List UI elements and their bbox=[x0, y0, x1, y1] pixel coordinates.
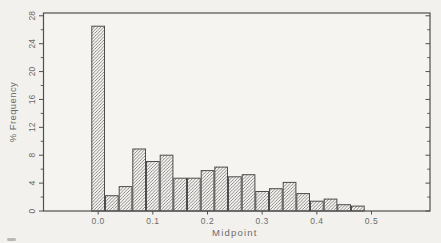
y-tick-label: 12 bbox=[27, 122, 37, 132]
histogram-bar bbox=[352, 206, 365, 211]
histogram-figure: 04812162024280.00.10.20.30.40.5% Frequen… bbox=[0, 0, 441, 243]
histogram-bar bbox=[229, 177, 242, 211]
scan-artifact bbox=[7, 238, 16, 241]
x-tick-label: 0.4 bbox=[310, 216, 323, 226]
histogram-bar bbox=[119, 187, 132, 211]
histogram-chart: 04812162024280.00.10.20.30.40.5% Frequen… bbox=[0, 0, 441, 243]
histogram-bar bbox=[283, 182, 296, 211]
histogram-bar bbox=[106, 196, 119, 211]
histogram-bar bbox=[311, 201, 324, 211]
histogram-bar bbox=[160, 155, 173, 211]
histogram-bar bbox=[256, 192, 269, 212]
y-tick-label: 8 bbox=[27, 153, 37, 158]
histogram-bar bbox=[188, 178, 201, 211]
y-tick-label: 16 bbox=[27, 94, 37, 104]
histogram-bar bbox=[338, 205, 351, 211]
histogram-bar bbox=[133, 149, 146, 211]
x-tick-label: 0.2 bbox=[201, 216, 214, 226]
histogram-bar bbox=[92, 26, 105, 211]
y-tick-label: 20 bbox=[27, 67, 37, 77]
histogram-bar bbox=[201, 171, 214, 211]
histogram-bar bbox=[174, 178, 187, 211]
histogram-bar bbox=[297, 194, 310, 211]
x-tick-label: 0.5 bbox=[365, 216, 378, 226]
y-tick-label: 0 bbox=[27, 208, 37, 213]
x-tick-label: 0.1 bbox=[146, 216, 159, 226]
histogram-bar bbox=[215, 167, 228, 211]
y-tick-label: 28 bbox=[27, 11, 37, 21]
y-axis-title: % Frequency bbox=[7, 82, 18, 142]
x-tick-label: 0.0 bbox=[92, 216, 105, 226]
x-axis-title: Midpoint bbox=[212, 227, 258, 238]
histogram-bar bbox=[324, 199, 337, 211]
y-tick-label: 4 bbox=[27, 180, 37, 185]
histogram-bar bbox=[270, 189, 283, 211]
x-tick-label: 0.3 bbox=[256, 216, 269, 226]
histogram-bar bbox=[147, 162, 160, 212]
y-tick-label: 24 bbox=[27, 39, 37, 49]
histogram-bar bbox=[242, 175, 255, 211]
